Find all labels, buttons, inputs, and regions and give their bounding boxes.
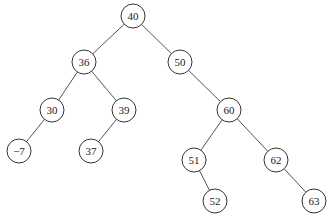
node-label: 52	[210, 195, 221, 207]
tree-node: 39	[112, 98, 136, 122]
tree-node: 40	[121, 4, 145, 28]
tree-node: 37	[79, 139, 103, 163]
node-label: −7	[13, 145, 25, 157]
node-label: 62	[271, 154, 282, 166]
tree-nodes: 403650303960−73751625263	[7, 4, 326, 213]
tree-node: 36	[72, 50, 96, 74]
node-label: 40	[128, 10, 140, 22]
tree-node: 60	[217, 98, 241, 122]
tree-node: 62	[264, 148, 288, 172]
node-label: 60	[224, 104, 236, 116]
tree-node: 51	[182, 148, 206, 172]
node-label: 63	[309, 195, 321, 207]
binary-search-tree-diagram: 403650303960−73751625263	[0, 0, 334, 221]
tree-node: 63	[302, 189, 326, 213]
node-label: 36	[79, 56, 91, 68]
node-label: 37	[86, 145, 98, 157]
tree-node: 52	[203, 189, 227, 213]
tree-node: 50	[168, 50, 192, 74]
tree-node: 30	[40, 98, 64, 122]
node-label: 51	[189, 154, 200, 166]
node-label: 50	[175, 56, 187, 68]
node-label: 39	[119, 104, 131, 116]
tree-node: −7	[7, 139, 31, 163]
node-label: 30	[47, 104, 59, 116]
